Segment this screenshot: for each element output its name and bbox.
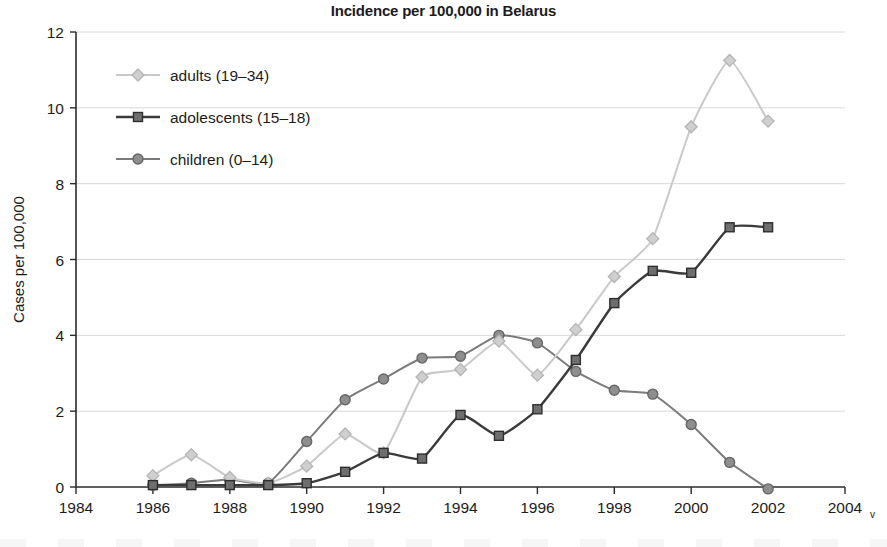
data-point-marker-legend bbox=[133, 154, 143, 164]
x-tick-label: 2000 bbox=[674, 499, 709, 516]
y-axis-title-text: Cases per 100,000 bbox=[10, 196, 27, 323]
line-chart-plot: 024681012 198419861988199019921994199619… bbox=[0, 0, 887, 547]
data-point-marker-4 bbox=[302, 479, 311, 488]
data-point-marker-13 bbox=[648, 389, 658, 399]
data-point-marker-11 bbox=[571, 366, 581, 376]
data-point-marker-7 bbox=[417, 353, 427, 363]
y-tick-label: 8 bbox=[55, 176, 64, 193]
x-tick-label: 1990 bbox=[289, 499, 324, 516]
data-point-marker-16 bbox=[762, 115, 774, 127]
data-point-marker-8 bbox=[455, 363, 467, 375]
x-tick-label: 1996 bbox=[520, 499, 554, 516]
data-point-marker-legend bbox=[134, 113, 143, 122]
y-tick-label: 2 bbox=[55, 403, 64, 420]
x-axis-ticks: 1984198619881990199219941996199820002002… bbox=[59, 487, 875, 520]
data-point-marker-2 bbox=[225, 481, 234, 490]
x-tick-label: 2002 bbox=[751, 499, 785, 516]
data-point-marker-0 bbox=[147, 470, 159, 482]
legend-label: adolescents (15–18) bbox=[170, 109, 310, 126]
legend-item-0[interactable]: adults (19–34) bbox=[116, 67, 269, 84]
x-tick-label: 1984 bbox=[59, 499, 94, 516]
data-point-marker-13 bbox=[648, 266, 657, 275]
data-point-marker-4 bbox=[302, 437, 312, 447]
data-point-marker-legend bbox=[132, 69, 144, 81]
data-point-marker-14 bbox=[687, 268, 696, 277]
x-tick-label: 1992 bbox=[366, 499, 400, 516]
data-point-marker-12 bbox=[610, 299, 619, 308]
data-point-marker-7 bbox=[416, 371, 428, 383]
data-point-marker-6 bbox=[379, 374, 389, 384]
data-point-marker-10 bbox=[533, 405, 542, 414]
data-point-marker-16 bbox=[763, 484, 773, 494]
data-point-marker-6 bbox=[379, 448, 388, 457]
data-point-marker-5 bbox=[341, 467, 350, 476]
data-point-marker-7 bbox=[418, 454, 427, 463]
legend-label: children (0–14) bbox=[170, 151, 273, 168]
data-point-marker-14 bbox=[685, 121, 697, 133]
legend-item-2[interactable]: children (0–14) bbox=[116, 151, 273, 168]
chart-container: Incidence per 100,000 in Belarus 0246810… bbox=[0, 0, 887, 547]
data-point-marker-8 bbox=[456, 351, 466, 361]
x-tick-label: 2004 bbox=[828, 499, 863, 516]
data-point-marker-10 bbox=[531, 369, 543, 381]
y-tick-label: 4 bbox=[55, 327, 64, 344]
data-point-marker-0 bbox=[148, 481, 157, 490]
data-point-marker-11 bbox=[571, 355, 580, 364]
x-tick-label: 1986 bbox=[136, 499, 170, 516]
data-point-marker-5 bbox=[340, 395, 350, 405]
data-point-marker-13 bbox=[647, 233, 659, 245]
y-tick-label: 12 bbox=[47, 24, 64, 41]
x-tick-label: 1988 bbox=[213, 499, 247, 516]
chart-legend: adults (19–34)adolescents (15–18)childre… bbox=[116, 67, 310, 168]
data-point-marker-14 bbox=[686, 419, 696, 429]
data-point-marker-15 bbox=[725, 457, 735, 467]
data-point-marker-1 bbox=[187, 481, 196, 490]
data-point-marker-1 bbox=[185, 449, 197, 461]
x-tick-label: 1994 bbox=[443, 499, 478, 516]
legend-label: adults (19–34) bbox=[170, 67, 269, 84]
data-point-marker-10 bbox=[532, 338, 542, 348]
y-axis-title: Cases per 100,000 bbox=[10, 196, 27, 323]
data-point-marker-15 bbox=[725, 223, 734, 232]
legend-item-1[interactable]: adolescents (15–18) bbox=[116, 109, 310, 126]
y-tick-label: 0 bbox=[55, 479, 64, 496]
y-axis-ticks: 024681012 bbox=[47, 24, 76, 496]
y-tick-label: 6 bbox=[55, 252, 64, 269]
x-tick-label: 1998 bbox=[597, 499, 631, 516]
x-axis-suffix-marker: v bbox=[870, 509, 875, 520]
y-tick-label: 10 bbox=[47, 100, 65, 117]
data-point-marker-9 bbox=[494, 431, 503, 440]
data-point-marker-3 bbox=[264, 481, 273, 490]
data-point-marker-16 bbox=[764, 223, 773, 232]
data-point-marker-8 bbox=[456, 410, 465, 419]
data-point-marker-12 bbox=[609, 385, 619, 395]
data-point-marker-5 bbox=[339, 428, 351, 440]
